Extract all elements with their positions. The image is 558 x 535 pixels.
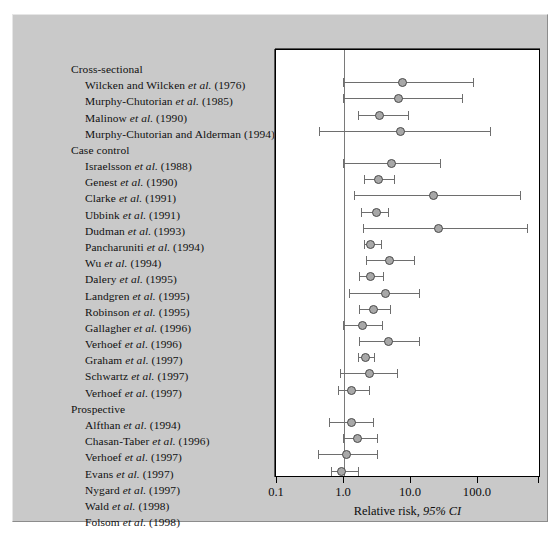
- et-al: et al.: [120, 273, 143, 285]
- ci-cap-high: [394, 175, 395, 184]
- study-year: (1996): [176, 435, 210, 447]
- study-label: Murphy-Chutorian and Alderman (1994): [85, 128, 275, 140]
- ci-row: [276, 77, 539, 89]
- forest-plot-figure: Cross-sectionalWilcken and Wilcken et al…: [0, 0, 558, 535]
- study-name: Israelsson: [85, 160, 135, 172]
- ci-cap-high: [377, 434, 378, 443]
- study-name: Verhoef: [85, 387, 125, 399]
- ci-cap-low: [364, 175, 365, 184]
- ci-row: [276, 190, 539, 202]
- ci-row: [276, 174, 539, 186]
- ci-cap-high: [419, 337, 420, 346]
- study-label-column: Cross-sectionalWilcken and Wilcken et al…: [71, 51, 271, 471]
- et-al: et al.: [123, 419, 146, 431]
- ci-cap-low: [343, 78, 344, 87]
- ci-cap-low: [349, 289, 350, 298]
- ci-cap-low: [363, 224, 364, 233]
- point-estimate-marker: [366, 272, 375, 281]
- et-al: et al.: [125, 451, 148, 463]
- ci-cap-high: [414, 256, 415, 265]
- ci-cap-low: [354, 191, 355, 200]
- study-year: (1997): [140, 468, 174, 480]
- ci-cap-low: [359, 337, 360, 346]
- study-year: (1993): [151, 225, 185, 237]
- study-name: Dudman: [85, 225, 128, 237]
- study-name: Schwartz: [85, 370, 131, 382]
- study-name: Malinow: [85, 112, 130, 124]
- plot-area: [275, 49, 540, 477]
- study-label: Nygard et al. (1997): [85, 484, 180, 496]
- ci-row: [276, 368, 539, 380]
- ci-cap-low: [343, 159, 344, 168]
- point-estimate-marker: [347, 418, 356, 427]
- ci-row: [276, 304, 539, 316]
- et-al: et al.: [132, 306, 155, 318]
- study-year: (1997): [148, 451, 182, 463]
- ci-row: [276, 207, 539, 219]
- point-estimate-marker: [381, 289, 390, 298]
- study-label: Wu et al. (1994): [85, 257, 161, 269]
- ci-row: [276, 320, 539, 332]
- study-label: Alfthan et al. (1994): [85, 419, 181, 431]
- et-al: et al.: [125, 338, 148, 350]
- ci-row: [276, 223, 539, 235]
- ci-row: [276, 271, 539, 283]
- study-year: (1995): [143, 273, 177, 285]
- x-axis-title-plain: Relative risk,: [354, 504, 420, 518]
- et-al: et al.: [128, 225, 151, 237]
- x-axis: 0.11.010.0100.0: [275, 477, 540, 478]
- study-year: (1997): [148, 387, 182, 399]
- point-estimate-marker: [369, 305, 378, 314]
- et-al: et al.: [125, 387, 148, 399]
- ci-cap-low: [359, 305, 360, 314]
- study-name: Verhoef: [85, 451, 125, 463]
- et-al: et al.: [116, 468, 139, 480]
- ci-cap-high: [388, 208, 389, 217]
- ci-cap-high: [419, 289, 420, 298]
- ci-cap-low: [329, 418, 330, 427]
- point-estimate-marker: [374, 175, 383, 184]
- ci-cap-high: [381, 240, 382, 249]
- ci-cap-high: [440, 159, 441, 168]
- ci-cap-low: [331, 467, 332, 476]
- study-label: Folsom et al. (1998): [85, 516, 180, 528]
- study-year: (1988): [158, 160, 192, 172]
- study-name: Verhoef: [85, 338, 125, 350]
- ci-cap-low: [343, 321, 344, 330]
- ci-cap-high: [527, 224, 528, 233]
- study-year: (1985): [199, 95, 233, 107]
- et-al: et al.: [123, 516, 146, 528]
- ci-row: [276, 385, 539, 397]
- et-al: et al.: [120, 176, 143, 188]
- ci-cap-high: [408, 111, 409, 120]
- ci-cap-low: [366, 256, 367, 265]
- ci-row: [276, 417, 539, 429]
- study-name: Clarke: [85, 192, 119, 204]
- point-estimate-marker: [372, 208, 381, 217]
- study-label: Evans et al. (1997): [85, 468, 174, 480]
- study-year: (1995): [156, 306, 190, 318]
- group-heading: Case control: [71, 144, 129, 156]
- study-name: Wu: [85, 257, 104, 269]
- et-al: et al.: [132, 290, 155, 302]
- study-name: Landgren: [85, 290, 132, 302]
- ci-cap-high: [390, 305, 391, 314]
- point-estimate-marker: [429, 191, 438, 200]
- point-estimate-marker: [394, 94, 403, 103]
- study-year: (1998): [136, 500, 170, 512]
- study-label: Chasan-Taber et al. (1996): [85, 435, 210, 447]
- study-name: Genest: [85, 176, 120, 188]
- ci-cap-low: [361, 208, 362, 217]
- study-year: (1997): [146, 484, 180, 496]
- x-tick-label: 10.0: [399, 485, 421, 500]
- study-name: Dalery: [85, 273, 120, 285]
- point-estimate-marker: [375, 111, 384, 120]
- study-year: (1990): [144, 176, 178, 188]
- study-label: Robinson et al. (1995): [85, 306, 190, 318]
- study-name: Wilcken and Wilcken: [85, 79, 188, 91]
- x-tick: [276, 477, 277, 483]
- ci-row: [276, 126, 539, 138]
- ci-row: [276, 336, 539, 348]
- study-year: (1996): [148, 338, 182, 350]
- study-year: (1997): [155, 370, 189, 382]
